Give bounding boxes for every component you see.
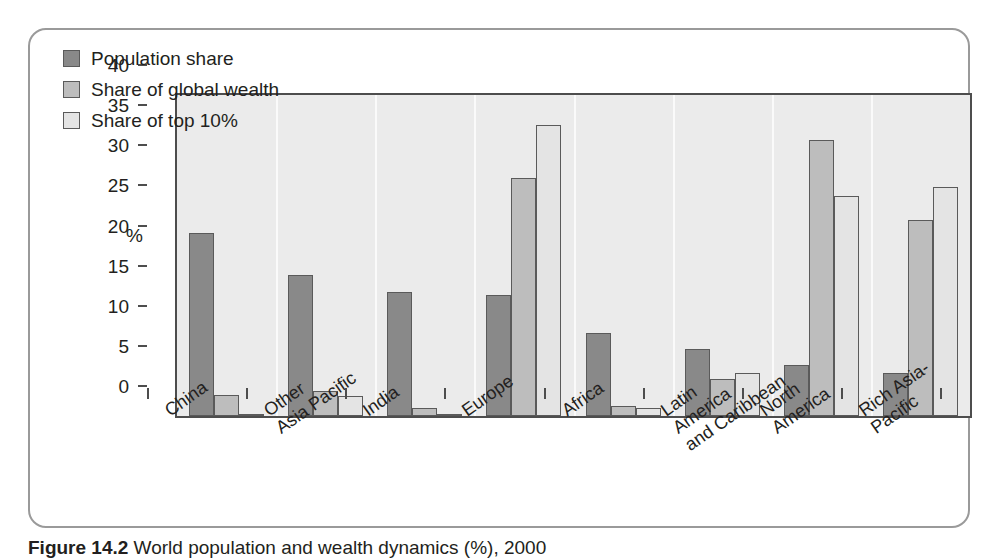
legend-item-1: Share of global wealth: [63, 74, 279, 105]
legend-item-2: Share of top 10%: [63, 105, 279, 136]
y-axis-tick-mark: [138, 345, 147, 347]
y-axis-tick-mark: [138, 144, 147, 146]
y-axis-tick-label: 15: [95, 256, 129, 275]
bar-0-2: [239, 414, 264, 416]
x-axis-tick-mark: [841, 388, 843, 399]
legend-swatch-icon: [63, 112, 80, 129]
y-axis-tick-mark: [138, 305, 147, 307]
bar-2-2: [437, 414, 462, 416]
y-axis-tick-label: 10: [95, 296, 129, 315]
x-axis-tick-mark: [742, 388, 744, 399]
bar-3-1: [511, 178, 536, 416]
figure-caption: Figure 14.2 World population and wealth …: [28, 537, 546, 559]
figure-caption-text: World population and wealth dynamics (%)…: [134, 537, 547, 558]
y-axis-tick-label: 5: [95, 336, 129, 355]
legend-label: Population share: [91, 48, 234, 70]
legend-item-0: Population share: [63, 43, 279, 74]
category-separator: [673, 95, 675, 416]
y-axis-tick-label: 25: [95, 176, 129, 195]
y-axis-tick-mark: [138, 184, 147, 186]
x-axis-tick-mark: [345, 388, 347, 399]
bar-6-2: [834, 196, 859, 416]
category-separator: [474, 95, 476, 416]
legend-label: Share of global wealth: [91, 79, 279, 101]
x-axis-tick-mark: [444, 388, 446, 399]
category-separator: [375, 95, 377, 416]
y-axis-tick-label: 30: [95, 136, 129, 155]
chart-legend: Population shareShare of global wealthSh…: [63, 43, 279, 136]
x-axis-tick-mark: [147, 388, 149, 399]
figure-frame: % 0510152025303540 ChinaOther Asia Pacif…: [28, 28, 970, 528]
x-axis-tick-mark: [940, 388, 942, 399]
x-axis-tick-mark: [643, 388, 645, 399]
category-separator: [276, 95, 278, 416]
bar-3-2: [536, 125, 561, 416]
y-axis-tick-mark: [138, 265, 147, 267]
bar-4-2: [636, 408, 661, 416]
y-axis-tick-mark: [138, 385, 147, 387]
category-separator: [574, 95, 576, 416]
x-axis-tick-mark: [246, 388, 248, 399]
figure-caption-number: Figure 14.2: [28, 537, 128, 558]
bar-4-1: [611, 406, 636, 416]
category-separator: [871, 95, 873, 416]
bar-2-1: [412, 408, 437, 416]
bar-0-1: [214, 395, 239, 416]
y-axis-tick-label: 0: [95, 377, 129, 396]
legend-swatch-icon: [63, 81, 80, 98]
y-axis-tick-label: 20: [95, 216, 129, 235]
chart-plot-area: [175, 93, 972, 418]
x-axis-tick-mark: [544, 388, 546, 399]
legend-label: Share of top 10%: [91, 110, 238, 132]
legend-swatch-icon: [63, 50, 80, 67]
y-axis-tick-mark: [138, 225, 147, 227]
